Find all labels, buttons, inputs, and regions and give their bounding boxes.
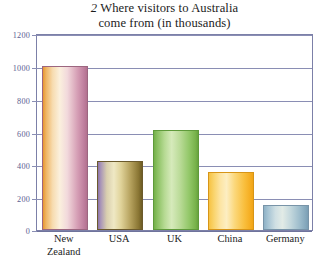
bars-layer: [37, 35, 312, 230]
y-tick-label-800: 800: [17, 97, 30, 106]
x-axis-label-line: China: [202, 233, 257, 246]
y-tick-label-200: 200: [17, 195, 30, 204]
bar-germany: [263, 205, 309, 230]
chart-title-line-1: 2Where visitors to Australia: [0, 1, 329, 16]
y-tick-label-1200: 1200: [13, 31, 30, 40]
bar-uk: [153, 130, 199, 230]
bar-china: [208, 172, 254, 230]
x-axis-labels: NewZealandUSAUKChinaGermany: [36, 233, 313, 263]
bar-new-zealand: [42, 66, 88, 230]
y-tick-label-600: 600: [17, 130, 30, 139]
x-axis-label-line: USA: [91, 233, 146, 246]
y-tick-mark-0: [32, 231, 37, 232]
chart-screenshot: 2Where visitors to Australia come from (…: [0, 0, 329, 263]
x-axis-label-china: China: [202, 233, 257, 246]
plot-area: 020040060080010001200: [36, 34, 313, 231]
x-axis-label-line: Germany: [258, 233, 313, 246]
gridline-0: 0: [37, 231, 312, 232]
bar-usa: [97, 161, 143, 230]
x-axis-label-line: UK: [147, 233, 202, 246]
y-tick-label-1000: 1000: [13, 64, 30, 73]
x-axis-label-line: New: [36, 233, 91, 246]
x-axis-label-uk: UK: [147, 233, 202, 246]
bar-fill: [263, 205, 309, 230]
x-axis-label-line: Zealand: [36, 246, 91, 259]
bar-fill: [42, 66, 88, 230]
x-axis-label-usa: USA: [91, 233, 146, 246]
y-tick-label-0: 0: [26, 227, 30, 236]
x-axis-label-new-zealand: NewZealand: [36, 233, 91, 258]
x-axis-label-germany: Germany: [258, 233, 313, 246]
bar-fill: [97, 161, 143, 230]
bar-fill: [153, 130, 199, 230]
bar-fill: [208, 172, 254, 230]
chart-title-number: 2: [91, 1, 100, 15]
chart-title-line-2: come from (in thousands): [0, 16, 329, 31]
y-tick-label-400: 400: [17, 162, 30, 171]
chart-title-text-1: Where visitors to Australia: [100, 1, 238, 15]
chart-title: 2Where visitors to Australia come from (…: [0, 1, 329, 31]
